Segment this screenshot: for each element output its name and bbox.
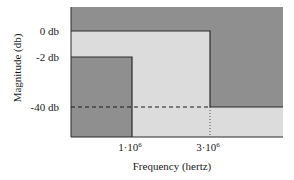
x-axis-title: Frequency (hertz) bbox=[133, 160, 212, 173]
x-tick-1e6: 1·106 bbox=[118, 141, 142, 153]
forbidden-region-stopband bbox=[210, 31, 283, 107]
y-tick-40db: -40 db bbox=[31, 101, 60, 113]
y-axis-title: Magnitude (db) bbox=[11, 33, 24, 102]
filter-spec-diagram: 0 db -2 db -40 db 1·106 3·106 Frequency … bbox=[0, 0, 294, 180]
x-tick-3e6: 3·106 bbox=[196, 141, 220, 153]
forbidden-region-passband bbox=[71, 57, 132, 137]
y-tick-0db: 0 db bbox=[40, 25, 60, 37]
y-tick-2db: -2 db bbox=[36, 51, 59, 63]
forbidden-region-above-0db bbox=[71, 7, 283, 31]
